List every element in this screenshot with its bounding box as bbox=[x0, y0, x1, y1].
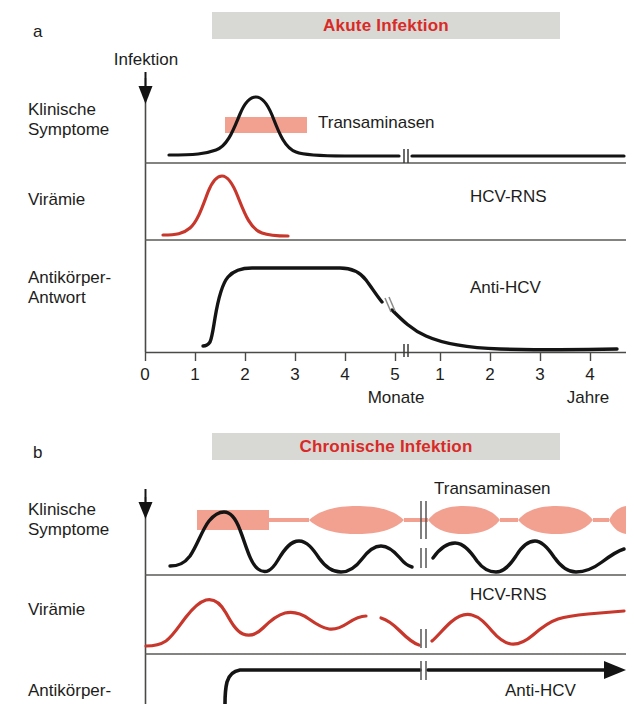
curve-anti-hcv-b bbox=[225, 670, 420, 704]
chart-vector-layer bbox=[0, 0, 634, 704]
curve-hcv-rns-b-3 bbox=[432, 611, 624, 644]
axis-break-b-row1 bbox=[421, 548, 426, 568]
axis-break-a-row1 bbox=[404, 149, 408, 163]
curve-anti-hcv-a-rise bbox=[203, 268, 382, 346]
axis-break-b-row3 bbox=[421, 661, 426, 680]
infection-arrow-head-b bbox=[139, 502, 153, 519]
curve-hcv-rns-b-2 bbox=[381, 618, 419, 645]
figure-hcv-infection-course: a Akute Infektion Infektion Klinische Sy… bbox=[0, 0, 634, 704]
curve-hcv-rns-b-1 bbox=[146, 600, 366, 646]
anti-hcv-arrow-head-b bbox=[604, 661, 626, 679]
curve-anti-hcv-a-fall bbox=[392, 310, 617, 350]
x-axis-ticks-a bbox=[146, 352, 591, 361]
curve-hcv-rns-a bbox=[163, 176, 288, 236]
axis-break-b-row2 bbox=[421, 629, 426, 648]
curve-transaminasen-b-2 bbox=[433, 541, 624, 572]
axis-break-x-a bbox=[404, 344, 408, 357]
transaminase-band-b bbox=[197, 506, 626, 534]
infection-arrow-head-a bbox=[139, 86, 153, 104]
